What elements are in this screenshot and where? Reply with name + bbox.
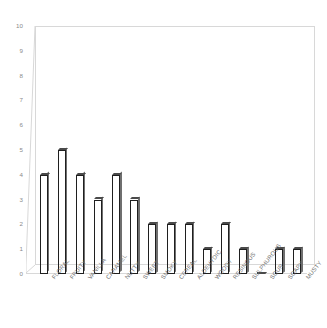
bar-slot [112,26,122,274]
bar-slot [76,26,86,274]
y-axis-tick-label: 8 [1,72,23,78]
bar-slot [40,26,50,274]
bar [40,175,49,274]
bar-top-face [203,247,213,249]
bar-top-face [40,173,50,175]
bar-slot [275,26,285,274]
bar-front-face [40,175,48,274]
bar-front-face [58,150,66,274]
bar-slot [203,26,213,274]
x-axis: FLORALFRUITYVANILLACARAMELNUTTYSWEETSMOK… [35,274,307,328]
bar-top-face [58,148,68,150]
y-axis-tick-label: 5 [1,147,23,153]
bars-area [35,26,307,274]
y-axis-tick-label: 2 [1,221,23,227]
bar-slot [58,26,68,274]
y-axis-tick-label: 3 [1,196,23,202]
y-axis: 109876543210 [0,0,26,328]
bar-slot [94,26,104,274]
y-axis-tick-label: 9 [1,48,23,54]
bar-slot [239,26,249,274]
y-axis-tick-label: 10 [1,23,23,29]
bar-slot [221,26,231,274]
y-axis-tick-label: 4 [1,172,23,178]
y-axis-tick-label: 0 [1,271,23,277]
bar [58,150,67,274]
bar-top-face [112,173,122,175]
bar-slot [167,26,177,274]
bar-slot [130,26,140,274]
bar-slot [185,26,195,274]
bar-chart: 109876543210 FLORALFRUITYVANILLACARAMELN… [0,0,327,328]
y-axis-tick-label: 7 [1,97,23,103]
y-axis-tick-label: 1 [1,246,23,252]
y-axis-tick-label: 6 [1,122,23,128]
bar-slot [257,26,267,274]
bar-top-face [185,222,195,224]
bar-top-face [167,222,177,224]
bar-slot [293,26,303,274]
bar-slot [148,26,158,274]
bar-top-face [76,173,86,175]
